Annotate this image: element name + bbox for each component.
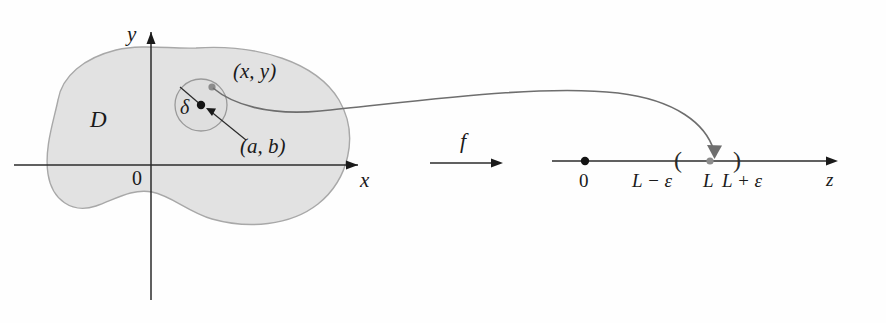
diagram-canvas — [0, 0, 886, 323]
mapping-curve-arrowhead — [707, 145, 722, 159]
center-point-label: (a, b) — [240, 136, 286, 157]
z-origin-label: 0 — [579, 171, 589, 190]
point-a-b — [197, 101, 205, 109]
y-axis-label: y — [127, 24, 136, 45]
function-arrow-arrowhead — [491, 159, 503, 168]
x-axis-arrowhead — [346, 161, 358, 170]
point-limit-L — [706, 157, 713, 164]
lower-bound-label: L − ε — [632, 171, 672, 190]
interval-close-paren: ) — [733, 148, 741, 172]
interval-open-paren: ( — [674, 148, 682, 172]
y-axis-arrowhead — [147, 32, 156, 44]
function-label: f — [460, 130, 466, 152]
domain-region-label: D — [90, 108, 107, 131]
point-origin-z — [581, 157, 589, 165]
z-axis-label: z — [826, 170, 833, 189]
delta-radius-label: δ — [180, 97, 189, 117]
x-axis-label: x — [360, 170, 369, 191]
limit-definition-diagram: y x 0 D δ (x, y) (a, b) f ( ) 0 L − ε L … — [0, 0, 886, 323]
upper-bound-label: L + ε — [722, 171, 762, 190]
z-axis-arrowhead — [826, 157, 838, 166]
sample-point-label: (x, y) — [233, 61, 276, 82]
domain-region-shape — [47, 47, 349, 224]
limit-value-label: L — [703, 171, 714, 190]
domain-origin-label: 0 — [132, 168, 142, 188]
